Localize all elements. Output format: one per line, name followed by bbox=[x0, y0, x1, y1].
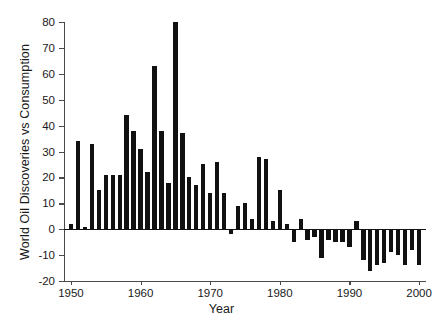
bar bbox=[124, 115, 128, 229]
bar bbox=[111, 175, 115, 229]
bar bbox=[131, 131, 135, 229]
bar bbox=[382, 229, 386, 263]
bar bbox=[97, 190, 101, 229]
bar bbox=[347, 229, 351, 247]
y-tick-mark bbox=[59, 152, 64, 153]
y-axis-line bbox=[64, 22, 65, 281]
bar bbox=[201, 164, 205, 229]
x-tick-mark bbox=[71, 281, 72, 285]
bar bbox=[194, 185, 198, 229]
y-tick-label: 0 bbox=[49, 223, 55, 235]
bar bbox=[340, 229, 344, 242]
x-tick-mark bbox=[280, 281, 281, 285]
y-tick-mark bbox=[59, 48, 64, 49]
bar bbox=[312, 229, 316, 237]
bar bbox=[145, 172, 149, 229]
plot-area: 80706050403020100-10-20 1950196019701980… bbox=[64, 22, 426, 281]
bar bbox=[138, 149, 142, 229]
bar bbox=[90, 144, 94, 229]
bar bbox=[403, 229, 407, 265]
bar bbox=[118, 175, 122, 229]
y-tick-mark bbox=[59, 255, 64, 256]
y-tick-label: 70 bbox=[42, 42, 55, 54]
bar bbox=[243, 203, 247, 229]
x-tick-label: 1960 bbox=[128, 287, 154, 299]
x-axis-line bbox=[64, 281, 426, 282]
bar bbox=[250, 219, 254, 229]
bar bbox=[187, 177, 191, 229]
x-tick-label: 1970 bbox=[197, 287, 223, 299]
x-tick-label: 2000 bbox=[406, 287, 432, 299]
y-tick-mark bbox=[59, 281, 64, 282]
x-tick-mark bbox=[419, 281, 420, 285]
y-axis-label: World Oil Discoveries vs Consumption bbox=[14, 12, 36, 292]
bar bbox=[299, 219, 303, 229]
y-tick-mark bbox=[59, 177, 64, 178]
oil-discoveries-bar-chart: World Oil Discoveries vs Consumption Yea… bbox=[0, 0, 443, 327]
x-axis-label: Year bbox=[0, 302, 443, 316]
x-tick-mark bbox=[349, 281, 350, 285]
bar bbox=[264, 159, 268, 229]
bar bbox=[389, 229, 393, 252]
y-tick-label: 30 bbox=[42, 146, 55, 158]
x-tick-label: 1990 bbox=[337, 287, 363, 299]
bar bbox=[278, 190, 282, 229]
x-tick-label: 1950 bbox=[58, 287, 84, 299]
y-tick-mark bbox=[59, 100, 64, 101]
bar bbox=[159, 131, 163, 229]
bar bbox=[305, 229, 309, 239]
x-tick-mark bbox=[210, 281, 211, 285]
bar bbox=[396, 229, 400, 255]
bar bbox=[417, 229, 421, 265]
bar bbox=[292, 229, 296, 242]
bar bbox=[236, 206, 240, 229]
bar bbox=[152, 66, 156, 229]
y-tick-label: 80 bbox=[42, 16, 55, 28]
bar bbox=[375, 229, 379, 265]
bar bbox=[104, 175, 108, 229]
bar bbox=[215, 162, 219, 229]
bar bbox=[271, 221, 275, 229]
bar bbox=[166, 183, 170, 230]
y-tick-label: 40 bbox=[42, 120, 55, 132]
bar bbox=[361, 229, 365, 260]
bar bbox=[222, 193, 226, 229]
y-tick-mark bbox=[59, 203, 64, 204]
y-tick-mark bbox=[59, 22, 64, 23]
bar bbox=[76, 141, 80, 229]
y-tick-label: 60 bbox=[42, 68, 55, 80]
bar bbox=[368, 229, 372, 270]
y-tick-mark bbox=[59, 74, 64, 75]
x-tick-label: 1980 bbox=[267, 287, 293, 299]
bar bbox=[410, 229, 414, 250]
y-tick-label: -20 bbox=[38, 275, 55, 287]
bar bbox=[326, 229, 330, 239]
y-tick-label: 10 bbox=[42, 197, 55, 209]
bar bbox=[180, 133, 184, 229]
y-tick-label: -10 bbox=[38, 249, 55, 261]
y-tick-label: 20 bbox=[42, 171, 55, 183]
x-tick-mark bbox=[141, 281, 142, 285]
y-tick-mark bbox=[59, 126, 64, 127]
bar bbox=[354, 221, 358, 229]
y-tick-label: 50 bbox=[42, 94, 55, 106]
bar bbox=[333, 229, 337, 242]
bar bbox=[208, 193, 212, 229]
bar bbox=[173, 22, 177, 229]
zero-baseline bbox=[64, 229, 426, 230]
bar bbox=[319, 229, 323, 257]
bar bbox=[257, 157, 261, 230]
